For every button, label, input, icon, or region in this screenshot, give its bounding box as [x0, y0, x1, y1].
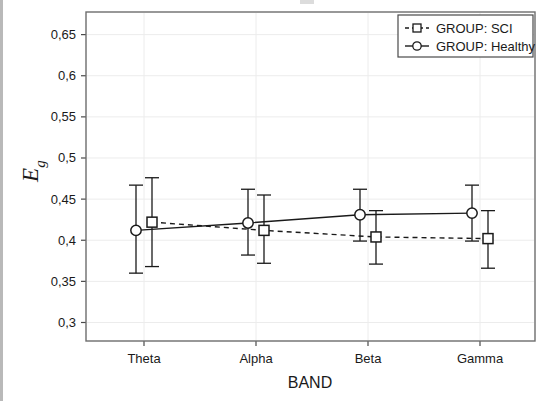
data-point-marker-square[interactable]: [483, 234, 493, 244]
data-point-marker-square[interactable]: [259, 225, 269, 235]
legend-label-healthy: GROUP: Healthy: [436, 39, 535, 54]
y-tick-label: 0,6: [58, 68, 76, 83]
data-point-marker-circle[interactable]: [355, 210, 365, 220]
legend-marker-square: [413, 24, 421, 32]
y-axis: 0,30,350,40,450,50,550,60,65: [51, 27, 86, 330]
x-tick-label-gamma: Gamma: [457, 351, 504, 366]
x-tick-label-theta: Theta: [127, 351, 161, 366]
error-bar-line-chart: 0,30,350,40,450,50,550,60,65 ThetaAlphaB…: [0, 0, 551, 401]
legend-label-sci: GROUP: SCI: [436, 21, 513, 36]
x-tick-label-beta: Beta: [355, 351, 383, 366]
y-tick-label: 0,65: [51, 27, 76, 42]
y-axis-title-subscript: g: [32, 160, 48, 168]
data-point-marker-square[interactable]: [147, 217, 157, 227]
chart-legend[interactable]: GROUP: SCIGROUP: Healthy: [398, 15, 535, 57]
y-tick-label: 0,35: [51, 274, 76, 289]
image-left-border: [0, 0, 3, 401]
y-tick-label: 0,3: [58, 315, 76, 330]
y-tick-label: 0,45: [51, 192, 76, 207]
x-axis-title: BAND: [288, 374, 332, 391]
y-axis-title-base: E: [18, 168, 43, 183]
legend-marker-circle: [413, 42, 421, 50]
x-axis: ThetaAlphaBetaGamma: [127, 341, 504, 366]
cropped-title-remnant: [300, 0, 314, 4]
plot-background: [86, 12, 535, 341]
y-axis-title: E g: [18, 160, 48, 183]
chart-figure: 0,30,350,40,450,50,550,60,65 ThetaAlphaB…: [0, 0, 551, 401]
y-tick-label: 0,5: [58, 150, 76, 165]
data-point-marker-square[interactable]: [371, 232, 381, 242]
data-point-marker-circle[interactable]: [467, 208, 477, 218]
data-point-marker-circle[interactable]: [131, 225, 141, 235]
x-tick-label-alpha: Alpha: [239, 351, 273, 366]
data-point-marker-circle[interactable]: [243, 218, 253, 228]
y-tick-label: 0,55: [51, 109, 76, 124]
y-tick-label: 0,4: [58, 233, 76, 248]
